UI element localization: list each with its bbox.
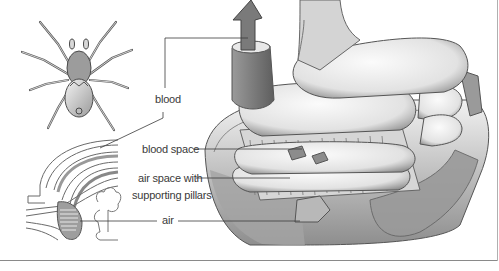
diagram-canvas: blood blood space air space with support… xyxy=(0,0,499,271)
label-air-space-line1: air space with xyxy=(138,172,202,185)
label-air-space-line2: supporting pillars xyxy=(132,189,212,202)
label-blood: blood xyxy=(155,93,181,106)
bottom-divider xyxy=(0,260,497,261)
label-air: air xyxy=(162,214,174,227)
label-blood-space: blood space xyxy=(142,143,199,156)
right-divider xyxy=(497,0,498,261)
book-lung-cutaway xyxy=(205,0,489,246)
book-lung-cross-section xyxy=(26,140,121,240)
spider-illustration xyxy=(22,22,132,130)
